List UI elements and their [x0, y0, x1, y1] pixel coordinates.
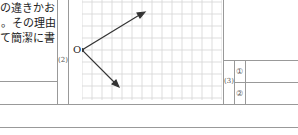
- part3-item-2-label: ②: [236, 89, 243, 98]
- origin-label: O: [73, 44, 81, 56]
- part3-item-1-label: ①: [236, 67, 243, 76]
- left-answer-line: [0, 81, 57, 82]
- blank-answer-line: [0, 127, 298, 128]
- lower-vector: [82, 50, 116, 84]
- vector-grid: [82, 0, 222, 102]
- part3-label: (3): [224, 77, 234, 85]
- part3-answer-field-2[interactable]: [246, 83, 298, 104]
- section-bottom-line: [0, 104, 298, 105]
- question-text-line-3: て簡潔に書: [0, 33, 55, 45]
- left-column-border: [57, 0, 58, 104]
- part2-label: (2): [58, 56, 68, 64]
- grid-right-border: [223, 0, 224, 104]
- part2-label-border: [68, 0, 69, 104]
- question-text-line-2: 。その理由: [1, 18, 56, 30]
- question-text-line-1: の違きかお: [0, 3, 55, 15]
- part3-answer-field-1[interactable]: [246, 61, 298, 82]
